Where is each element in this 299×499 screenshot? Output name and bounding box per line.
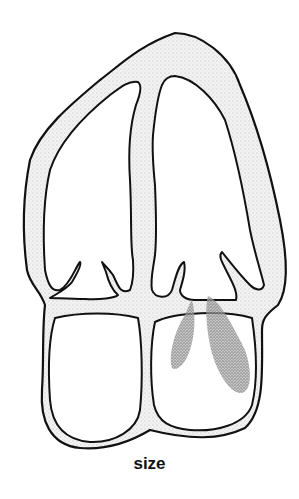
heart-diagram bbox=[0, 0, 299, 499]
left-ventricle-cavity bbox=[44, 82, 140, 300]
left-atrium-cavity bbox=[49, 314, 142, 443]
figure-caption: size bbox=[0, 454, 299, 474]
